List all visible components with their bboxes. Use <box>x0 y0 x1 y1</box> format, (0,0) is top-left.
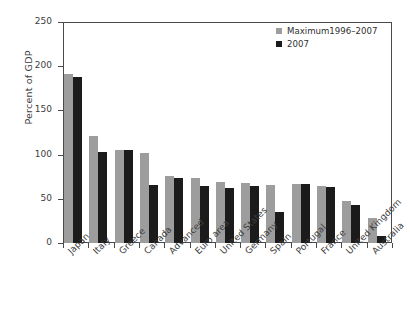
y-axis-tick-label: 200 <box>35 60 52 70</box>
bar-chart: Percent of GDP 050100150200250 JapanItal… <box>0 0 410 319</box>
bar-maximum[interactable] <box>64 74 73 243</box>
chart-legend: Maximum1996–2007 2007 <box>276 26 377 52</box>
bar-2007[interactable] <box>73 77 82 243</box>
bar-group[interactable] <box>139 22 164 243</box>
legend-swatch-icon <box>276 41 282 47</box>
bar-maximum[interactable] <box>292 184 301 243</box>
bar-group[interactable] <box>316 22 341 243</box>
y-axis-tick: 150 <box>0 110 63 111</box>
bar-group[interactable] <box>88 22 113 243</box>
bar-group[interactable] <box>291 22 316 243</box>
bar-group[interactable] <box>190 22 215 243</box>
legend-label: Maximum1996–2007 <box>287 26 377 36</box>
bar-group[interactable] <box>265 22 290 243</box>
y-axis-tick: 50 <box>0 199 63 200</box>
bar-group[interactable] <box>341 22 366 243</box>
y-axis-tick: 200 <box>0 66 63 67</box>
legend-item-maximum: Maximum1996–2007 <box>276 26 377 36</box>
y-axis-title: Percent of GDP <box>23 8 34 168</box>
bar-maximum[interactable] <box>89 136 98 243</box>
bar-2007[interactable] <box>124 150 133 243</box>
bars-layer <box>63 22 392 243</box>
x-axis-label-group: JapanItalyGreeceCanadaAdvancedEuro areaU… <box>63 243 403 319</box>
y-axis-tick: 100 <box>0 155 63 156</box>
bar-group[interactable] <box>63 22 88 243</box>
y-axis-tick-label: 100 <box>35 149 52 159</box>
y-axis-tick-label: 150 <box>35 104 52 114</box>
bar-group[interactable] <box>215 22 240 243</box>
legend-label: 2007 <box>287 39 309 49</box>
y-axis-tick: 0 <box>0 243 63 244</box>
bar-2007[interactable] <box>98 152 107 243</box>
bar-maximum[interactable] <box>115 150 124 243</box>
y-axis-tick: 250 <box>0 22 63 23</box>
bar-group[interactable] <box>114 22 139 243</box>
y-axis-tick-label: 50 <box>41 193 52 203</box>
legend-item-2007: 2007 <box>276 39 377 49</box>
legend-swatch-icon <box>276 28 282 34</box>
y-axis-tick-label: 250 <box>35 16 52 26</box>
y-axis-tick-label: 0 <box>46 237 52 247</box>
bar-group[interactable] <box>164 22 189 243</box>
